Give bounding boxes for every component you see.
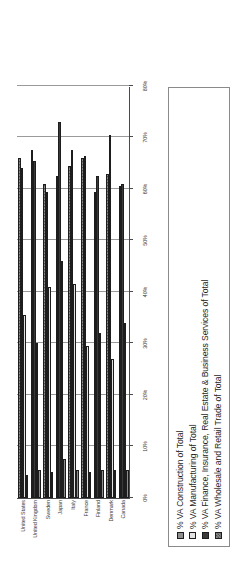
category-label: United States bbox=[20, 500, 26, 544]
bar-construction bbox=[51, 472, 54, 498]
legend-swatch-wholesale bbox=[215, 532, 222, 539]
axis-tick-label: 40% bbox=[142, 287, 148, 298]
chart-rotator: 80%70%60%50%40%30%20%10%0% CanadaDenmark… bbox=[0, 0, 251, 583]
legend-item: % VA Construction of Total bbox=[174, 95, 187, 539]
legend-swatch-finance bbox=[202, 532, 209, 539]
plot-wrapper: 80%70%60%50%40%30%20%10%0% CanadaDenmark… bbox=[17, 87, 152, 547]
tick-mark bbox=[129, 85, 133, 86]
bar-manufacturing bbox=[124, 323, 127, 498]
bar-finance bbox=[58, 122, 61, 498]
legend-swatch-construction bbox=[177, 532, 184, 539]
chart-legend: % VA Construction of Total% VA Manufactu… bbox=[168, 87, 230, 547]
gridline bbox=[17, 85, 129, 86]
bar-construction bbox=[126, 470, 129, 498]
legend-swatch-manufacturing bbox=[189, 532, 196, 539]
bar-wholesale bbox=[119, 186, 122, 498]
bar-group bbox=[17, 87, 30, 498]
bar-finance bbox=[121, 184, 124, 498]
bar-manufacturing bbox=[36, 344, 39, 499]
bar-manufacturing bbox=[23, 315, 26, 498]
bar-group bbox=[80, 87, 93, 498]
plot-area: 80%70%60%50%40%30%20%10%0% CanadaDenmark… bbox=[17, 87, 130, 499]
axis-tick-label: 30% bbox=[142, 338, 148, 349]
bar-construction bbox=[114, 470, 117, 498]
axis-tick-label: 70% bbox=[142, 132, 148, 143]
bar-wholesale bbox=[43, 184, 46, 498]
bar-wholesale bbox=[18, 158, 21, 498]
bar-construction bbox=[63, 459, 66, 498]
bar-wholesale bbox=[31, 150, 34, 498]
axis-tick-label: 80% bbox=[142, 81, 148, 92]
bar-construction bbox=[38, 470, 41, 498]
bar-finance bbox=[46, 192, 49, 498]
category-label: Denmark bbox=[108, 500, 114, 544]
legend-label: % VA Finance, Insurance, Real Estate & B… bbox=[200, 280, 210, 529]
bar-finance bbox=[96, 176, 99, 498]
bar-manufacturing bbox=[61, 261, 64, 498]
legend-item: % VA Finance, Insurance, Real Estate & B… bbox=[199, 95, 212, 539]
bar-group bbox=[117, 87, 130, 498]
axis-tick-label: 20% bbox=[142, 390, 148, 401]
bar-manufacturing bbox=[73, 284, 76, 498]
bar-wholesale bbox=[68, 166, 71, 498]
legend-item: % VA Manufacturing of Total bbox=[187, 95, 200, 539]
axis-tick-label: 60% bbox=[142, 184, 148, 195]
bar-manufacturing bbox=[111, 359, 114, 498]
bar-construction bbox=[26, 475, 29, 498]
bar-finance bbox=[33, 161, 36, 498]
legend-item: % VA Wholesale and Retail Trade of Total bbox=[212, 95, 225, 539]
bar-finance bbox=[109, 135, 112, 498]
legend-label: % VA Manufacturing of Total bbox=[188, 425, 198, 529]
category-label: United Kingdom bbox=[32, 500, 38, 544]
bar-finance bbox=[84, 156, 87, 498]
axis-tick-label: 0% bbox=[142, 494, 148, 502]
category-label: Canada bbox=[120, 500, 126, 544]
bar-wholesale bbox=[94, 192, 97, 498]
bar-construction bbox=[101, 470, 104, 498]
bar-finance bbox=[21, 168, 24, 498]
bar-group bbox=[55, 87, 68, 498]
category-label: Italy bbox=[70, 500, 76, 544]
bar-group bbox=[105, 87, 118, 498]
bar-wholesale bbox=[81, 158, 84, 498]
category-label: Japan bbox=[57, 500, 63, 544]
bar-manufacturing bbox=[99, 333, 102, 498]
category-label: France bbox=[83, 500, 89, 544]
category-label: Finland bbox=[95, 500, 101, 544]
bar-manufacturing bbox=[86, 346, 89, 498]
bar-chart-figure: 80%70%60%50%40%30%20%10%0% CanadaDenmark… bbox=[0, 0, 251, 583]
bar-group bbox=[67, 87, 80, 498]
bar-finance bbox=[71, 150, 74, 498]
bar-construction bbox=[76, 470, 79, 498]
bar-construction bbox=[89, 472, 92, 498]
bar-wholesale bbox=[56, 176, 59, 498]
axis-tick-label: 50% bbox=[142, 235, 148, 246]
category-label: Sweden bbox=[45, 500, 51, 544]
bar-manufacturing bbox=[48, 287, 51, 498]
legend-label: % VA Construction of Total bbox=[175, 431, 185, 529]
bar-group bbox=[42, 87, 55, 498]
bar-group bbox=[92, 87, 105, 498]
bar-group bbox=[30, 87, 43, 498]
legend-label: % VA Wholesale and Retail Trade of Total bbox=[213, 375, 223, 529]
axis-tick-label: 10% bbox=[142, 441, 148, 452]
bar-wholesale bbox=[106, 174, 109, 498]
